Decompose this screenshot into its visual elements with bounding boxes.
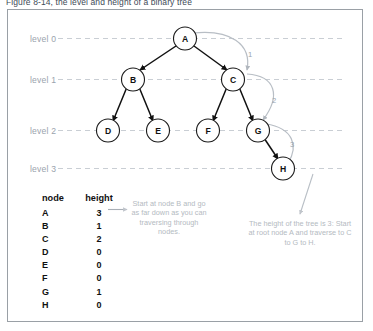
cell-node: A [42,207,76,220]
height-arc-label-1: 1 [248,50,252,59]
cell-node: E [42,259,76,272]
cell-height: 0 [76,299,122,312]
annotation-traversal-note: Start at node B and go as far down as yo… [131,199,207,237]
table-header-row: node height [42,193,122,207]
table-row: F 0 [42,272,122,285]
tree-node-label-b: B [123,75,143,85]
tree-node-label-f: F [198,126,218,136]
cell-node: G [42,286,76,299]
height-arc-label-3: 3 [290,140,294,149]
cell-height: 0 [76,272,122,285]
cell-node: C [42,233,76,246]
table-row: E 0 [42,259,122,272]
node-height-table: node height A 3 B 1 C 2 D 0 E 0 [42,193,122,312]
column-header-node: node [42,193,76,207]
table-row: G 1 [42,286,122,299]
cell-node: F [42,272,76,285]
cell-height: 1 [76,286,122,299]
table-row: A 3 [42,207,122,220]
tree-node-label-c: C [223,75,243,85]
cell-height: 0 [76,246,122,259]
cell-height: 2 [76,233,122,246]
edge-b-e [139,87,153,121]
level-label-2: level 2 [30,126,56,136]
tree-node-label-e: E [148,126,168,136]
level-label-0: level 0 [30,34,56,44]
height-arc-2 [247,74,274,120]
tree-edges [113,46,278,159]
tree-node-label-d: D [98,126,118,136]
level-lines [58,39,344,169]
level-label-3: level 3 [30,164,56,174]
tree-nodes [97,27,295,180]
edge-c-f [213,87,227,121]
note-right-arrow [300,174,313,214]
annotation-height-note: The height of the tree is 3: Start at ro… [248,219,352,247]
tree-node-label-a: A [175,34,195,44]
edge-c-g [239,87,253,121]
cell-height: 1 [76,220,122,233]
tree-node-label-g: G [248,126,268,136]
edge-b-d [113,87,127,121]
table-row: B 1 [42,220,122,233]
cell-height: 0 [76,259,122,272]
table-row: H 0 [42,299,122,312]
cell-height: 3 [76,207,122,220]
height-arc-label-2: 2 [272,96,276,105]
table-row: C 2 [42,233,122,246]
edge-a-c [194,46,227,70]
tree-node-label-h: H [273,164,293,174]
table-row: D 0 [42,246,122,259]
edge-a-b [140,46,176,70]
edge-g-h [264,138,278,159]
column-header-height: height [76,193,122,207]
cell-node: H [42,299,76,312]
cell-node: B [42,220,76,233]
cell-node: D [42,246,76,259]
level-label-1: level 1 [30,75,56,85]
